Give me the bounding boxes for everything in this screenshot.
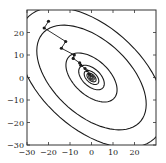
path-marker [79, 64, 82, 67]
y-tick-label: −20 [7, 119, 24, 128]
path-marker [73, 53, 76, 56]
y-axis: −30−20−1001020 [7, 29, 156, 151]
path-marker [86, 69, 89, 72]
plot-area [18, 7, 164, 147]
path-marker [72, 57, 75, 60]
y-tick-label: 20 [14, 29, 24, 38]
path-marker [64, 40, 67, 43]
contour-chart: −30−20−1001020 −30−20−1001020 [0, 0, 166, 163]
contour-line [18, 7, 164, 147]
path-marker [88, 73, 91, 76]
x-tick-label: 20 [129, 148, 139, 157]
y-tick-label: −10 [7, 96, 24, 105]
path-marker [47, 20, 50, 23]
y-tick-label: 10 [14, 51, 24, 60]
x-axis: −30−20−1001020 [19, 10, 140, 157]
x-tick-label: 0 [89, 148, 94, 157]
path-marker [60, 47, 63, 50]
path-marker [43, 26, 46, 29]
x-tick-label: −10 [62, 148, 79, 157]
x-tick-label: 10 [108, 148, 118, 157]
x-tick-label: −20 [40, 148, 57, 157]
y-tick-label: −30 [7, 141, 24, 150]
y-tick-label: 0 [19, 74, 24, 83]
